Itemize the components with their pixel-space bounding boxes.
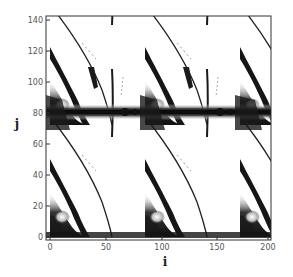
x-tick-100: 100 [154, 243, 169, 252]
y-tick-0: 0 [38, 233, 43, 242]
heatmap-figure: 0 20 40 60 80 100 120 140 0 50 100 150 2… [0, 0, 293, 277]
x-tick-labels: 0 50 100 150 200 [47, 243, 275, 252]
y-axis-label: j [14, 117, 19, 131]
y-tick-20: 20 [33, 202, 43, 211]
heatmap-area [46, 0, 293, 240]
y-tick-labels: 0 20 40 60 80 100 120 140 [28, 16, 43, 242]
y-tick-40: 40 [33, 171, 43, 180]
x-tick-150: 150 [209, 243, 224, 252]
y-tick-120: 120 [28, 47, 43, 56]
y-tick-140: 140 [28, 16, 43, 25]
x-tick-0: 0 [47, 243, 52, 252]
y-tick-100: 100 [28, 78, 43, 87]
y-tick-60: 60 [33, 140, 43, 149]
x-axis-label: i [163, 255, 168, 269]
y-tick-80: 80 [33, 109, 43, 118]
x-tick-200: 200 [260, 243, 275, 252]
x-tick-50: 50 [101, 243, 111, 252]
